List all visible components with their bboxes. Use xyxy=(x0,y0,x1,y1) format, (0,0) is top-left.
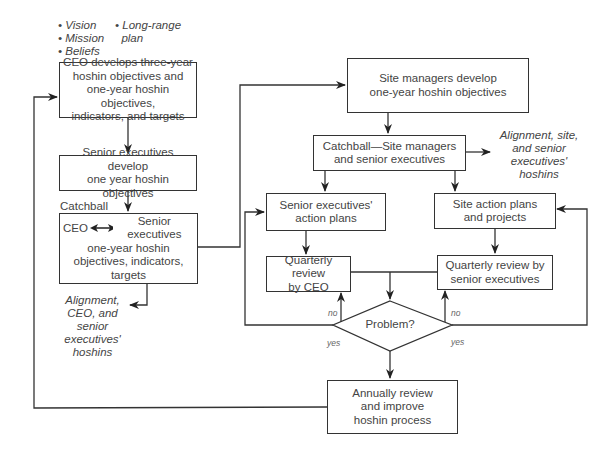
box-line: targets xyxy=(63,269,194,283)
box-line: senior executives xyxy=(445,273,544,287)
box-line: and senior executives xyxy=(323,153,457,167)
box-line: one-year hoshin xyxy=(63,242,194,256)
box-line: indicators, and targets xyxy=(63,110,193,124)
box-line: one-year hoshin objectives xyxy=(370,86,507,100)
box-line: Senior executives' xyxy=(280,199,373,213)
no-label-right: no xyxy=(451,307,460,320)
bullet-long-range-plan: • Long-range plan xyxy=(115,19,181,45)
senior-executives-label: Senior executives xyxy=(115,215,194,242)
box-line: and projects xyxy=(453,211,537,225)
annually-review-box: Annually review and improve hoshin proce… xyxy=(327,380,458,434)
senior-develop-box: Senior executives develop one year hoshi… xyxy=(59,155,197,191)
bullet-mission: • Mission xyxy=(58,32,104,45)
quarterly-review-ceo-box: Quarterly review by CEO xyxy=(266,256,351,292)
box-line: objectives, indicators, xyxy=(63,255,194,269)
box-line: and improve xyxy=(352,400,433,414)
yes-label-left: yes xyxy=(327,337,340,350)
problem-decision: Problem? xyxy=(350,318,430,330)
catchball-site-box: Catchball—Site managers and senior execu… xyxy=(313,135,466,171)
box-line: Site action plans xyxy=(453,198,537,212)
catchball-label: Catchball xyxy=(60,200,108,213)
double-arrow-icon xyxy=(90,224,113,232)
site-managers-box: Site managers develop one-year hoshin ob… xyxy=(347,58,529,113)
alignment-site-text: Alignment, site, and senior executives' … xyxy=(494,129,584,181)
box-line: one year hoshin objectives xyxy=(63,173,193,200)
box-line: hoshin process xyxy=(352,414,433,428)
ceo-develops-box: CEO develops three-year hoshin objective… xyxy=(59,62,197,118)
box-line: Catchball—Site managers xyxy=(323,140,457,154)
box-line: hoshin objectives and xyxy=(63,70,193,84)
box-line: by CEO xyxy=(270,281,347,295)
bullet-vision: • Vision xyxy=(58,19,96,32)
box-line: action plans xyxy=(280,212,373,226)
ceo-senior-catchball-box: CEO Senior executives one-year hoshin ob… xyxy=(59,213,198,284)
ceo-senior-row: CEO Senior executives xyxy=(63,215,194,242)
box-line: CEO develops three-year xyxy=(63,56,193,70)
site-action-plans-box: Site action plans and projects xyxy=(434,193,556,229)
box-line: Site managers develop xyxy=(370,72,507,86)
box-line: Quarterly review xyxy=(270,254,347,281)
box-line: one-year hoshin objectives, xyxy=(63,83,193,110)
box-line: Senior executives develop xyxy=(63,146,193,173)
senior-action-plans-box: Senior executives' action plans xyxy=(266,193,386,231)
no-label-left: no xyxy=(328,307,337,320)
yes-label-right: yes xyxy=(451,336,464,349)
ceo-label: CEO xyxy=(63,222,88,236)
box-line: Annually review xyxy=(352,387,433,401)
box-line: Quarterly review by xyxy=(445,259,544,273)
alignment-ceo-text: Alignment, CEO, and senior executives' h… xyxy=(60,294,125,359)
quarterly-review-senior-box: Quarterly review by senior executives xyxy=(437,255,553,290)
